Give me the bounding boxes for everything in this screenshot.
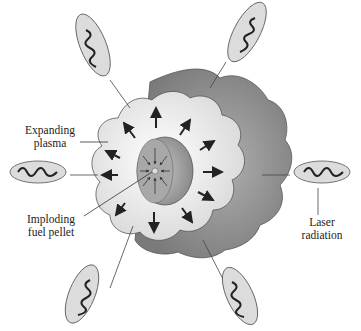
label-expanding-plasma: Expanding plasma <box>20 124 80 150</box>
label-line: radiation <box>292 229 352 242</box>
label-imploding-pellet: Imploding fuel pellet <box>18 213 84 239</box>
label-line: Expanding <box>20 124 80 137</box>
diagram-graphic <box>0 0 361 331</box>
label-line: fuel pellet <box>18 226 84 239</box>
label-line: plasma <box>20 137 80 150</box>
fusion-diagram: Expanding plasma Imploding fuel pellet L… <box>0 0 361 331</box>
label-laser-radiation: Laser radiation <box>292 216 352 242</box>
label-line: Laser <box>292 216 352 229</box>
label-line: Imploding <box>18 213 84 226</box>
